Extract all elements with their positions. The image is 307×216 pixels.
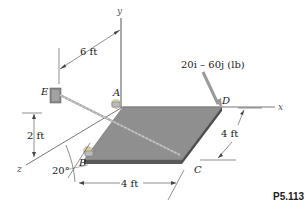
dim-4ft-width-label: 4 ft — [121, 178, 138, 189]
problem-number: P5.113 — [273, 191, 305, 202]
dim-6ft-label: 6 ft — [80, 46, 97, 57]
point-A-label: A — [112, 87, 120, 98]
dim-2ft-label: 2 ft — [27, 130, 44, 141]
point-D-label: D — [221, 95, 230, 106]
dim-4ft-depth-label: 4 ft — [221, 128, 238, 139]
force-label: 20i – 60j (lb) — [181, 59, 245, 70]
angle-arc — [66, 145, 75, 182]
z-axis-label: z — [16, 164, 22, 174]
bracket-E — [50, 88, 61, 103]
point-E-label: E — [40, 86, 49, 97]
y-axis-label: y — [116, 6, 123, 16]
hinge-A — [111, 99, 121, 109]
point-C-label: C — [194, 164, 202, 175]
plate — [84, 107, 222, 164]
hinge-B — [83, 146, 93, 156]
diagram-canvas: y x z A B C D E 20i – 60j (lb) 6 ft 2 ft… — [0, 0, 307, 216]
angle-label: 20° — [52, 165, 70, 176]
point-B-label: B — [78, 157, 86, 168]
x-axis-label: x — [278, 102, 283, 112]
force-arrow — [203, 72, 222, 108]
